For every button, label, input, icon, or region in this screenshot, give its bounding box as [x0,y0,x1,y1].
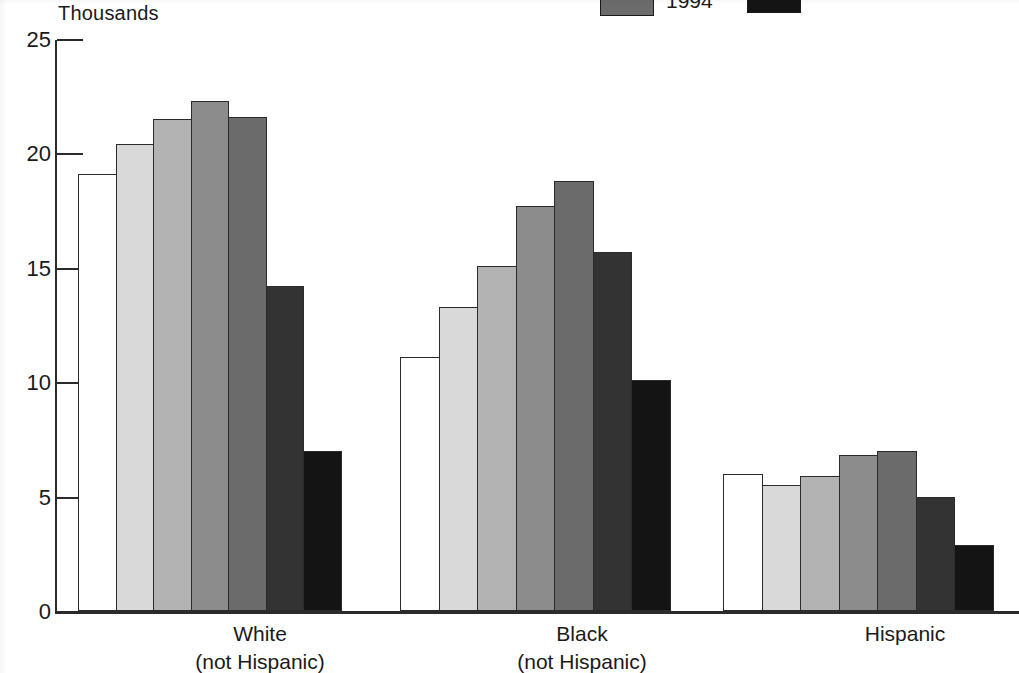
legend-label: 1994 [666,0,713,13]
bar [400,357,440,611]
y-axis-tick-label: 15 [7,258,51,280]
legend-swatch [600,0,654,16]
bar [954,545,994,611]
x-axis-line [55,611,1019,614]
legend-entry: 1994 [600,0,713,16]
bar [153,119,192,611]
bar [593,252,633,611]
y-axis-tick-label: 25 [7,29,51,51]
bar [877,451,917,611]
y-axis-tick-label: 0 [7,601,51,623]
bar [800,476,840,611]
y-axis-line [55,40,57,613]
category-label: Black (not Hispanic) [432,620,732,673]
bar [554,181,594,611]
bar-group [78,39,341,611]
bar [723,474,763,611]
bar-chart: Thousands 1994 0510152025 White (not His… [0,0,1019,673]
bar [228,117,267,611]
y-axis-unit-label: Thousands [58,2,159,25]
bar [191,101,230,611]
bar [762,485,802,611]
category-label: Hispanic [755,620,1019,648]
category-label: White (not Hispanic) [110,620,410,673]
bar [303,451,342,611]
bar [839,455,879,611]
bar [631,380,671,611]
legend-entry [747,0,801,13]
y-axis-tick-label: 10 [7,372,51,394]
bar [516,206,556,611]
y-axis-tick-label: 5 [7,487,51,509]
bar [78,174,117,611]
bar [116,144,155,611]
plot-area: 0510152025 [55,40,1019,612]
bar [916,497,956,611]
bar-group [723,39,993,611]
bar [266,286,305,611]
bar-group [400,39,670,611]
bar [439,307,479,611]
bar [477,266,517,611]
legend-swatch [747,0,801,13]
y-axis-tick-labels: 0510152025 [7,40,51,612]
y-axis-tick-label: 20 [7,143,51,165]
chart-legend: 1994 [600,0,835,16]
